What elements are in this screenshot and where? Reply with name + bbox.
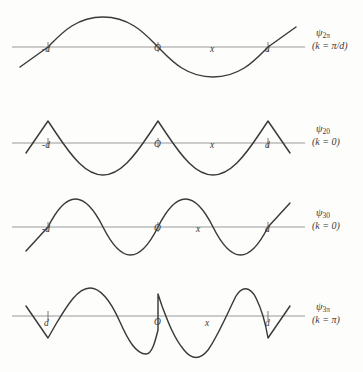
- psi-subscript-2pi: 2π: [323, 31, 331, 40]
- psi-label-2pi: ψ2π (k = π/d): [312, 26, 348, 53]
- tick-label-x: x: [210, 140, 214, 150]
- panel-psi-3pi: d O x d ψ3π (k = π): [0, 272, 363, 372]
- tick-label-minus-d: -d: [42, 224, 50, 234]
- tick-label-minus-d: -d: [42, 44, 50, 54]
- tick-label-minus-d: d: [44, 318, 49, 328]
- psi-label-3pi: ψ3π (k = π): [312, 300, 340, 327]
- tick-label-x: x: [196, 224, 200, 234]
- panel-2-plot: [0, 90, 363, 190]
- tick-label-origin: O: [154, 317, 161, 327]
- tick-label-x: x: [210, 44, 214, 54]
- psi-subscript-3pi: 3π: [323, 305, 331, 314]
- tick-label-x: x: [205, 318, 209, 328]
- panel-1-plot: [0, 0, 363, 100]
- tick-label-origin: O: [154, 43, 161, 53]
- tick-label-origin: O: [154, 139, 161, 149]
- tick-label-origin: O: [154, 223, 161, 233]
- tick-label-d: d: [265, 318, 270, 328]
- tick-label-d: d: [265, 44, 270, 54]
- k-label-20: (k = 0): [312, 136, 340, 149]
- psi-symbol-2pi: ψ2π: [312, 26, 348, 40]
- panel-psi-2pi: -d O x d ψ2π (k = π/d): [0, 0, 363, 90]
- bloch-wavefunctions-figure: -d O x d ψ2π (k = π/d) -d O x d ψ20 (k =…: [0, 0, 363, 372]
- tick-label-minus-d: -d: [42, 140, 50, 150]
- psi-symbol-3pi: ψ3π: [312, 300, 340, 314]
- k-label-30: (k = 0): [312, 220, 340, 233]
- k-label-2pi: (k = π/d): [312, 40, 348, 53]
- panel-4-plot: [0, 272, 363, 372]
- psi-subscript-30: 30: [323, 211, 331, 220]
- panel-psi-30: -d O x d ψ30 (k = 0): [0, 180, 363, 270]
- panel-psi-20: -d O x d ψ20 (k = 0): [0, 90, 363, 180]
- psi-symbol-30: ψ30: [312, 206, 340, 220]
- panel-3-plot: [0, 180, 363, 280]
- tick-label-d: d: [265, 224, 270, 234]
- psi-label-30: ψ30 (k = 0): [312, 206, 340, 233]
- psi-subscript-20: 20: [323, 127, 331, 136]
- psi-symbol-20: ψ20: [312, 122, 340, 136]
- tick-label-d: d: [265, 140, 270, 150]
- psi-label-20: ψ20 (k = 0): [312, 122, 340, 149]
- k-label-3pi: (k = π): [312, 314, 340, 327]
